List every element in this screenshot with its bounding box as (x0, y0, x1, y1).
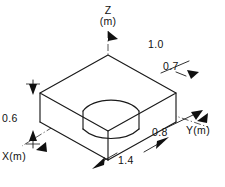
block-solid (40, 55, 176, 160)
isometric-block-diagram: Z (m) Y(m) X(m) 1.0 0.7 (0, 0, 225, 187)
dimension-0-8: 0.8 (152, 126, 168, 138)
dimension-1-0: 1.0 (148, 38, 164, 50)
dimension-0-7-arrowhead (187, 70, 199, 79)
dimension-0-6: 0.6 (2, 112, 18, 124)
y-axis-label: Y(m) (186, 124, 210, 136)
dimension-1-4-left-arrowhead (92, 157, 105, 169)
dimension-0-6-lower-arrowhead (29, 130, 37, 141)
z-axis-arrowhead (108, 31, 118, 41)
dimension-1-4-right-arrowhead (156, 137, 169, 149)
z-axis-arrow-group (108, 31, 118, 41)
figure-root: Z (m) Y(m) X(m) 1.0 0.7 (0, 0, 225, 187)
dimension-0-7: 0.7 (163, 60, 179, 72)
dimension-1-4-right-shaft (144, 144, 158, 152)
dimension-0-7-tick (176, 72, 186, 76)
x-axis-arrow-group (36, 142, 47, 152)
x-axis-arrowhead (36, 142, 47, 152)
z-axis-unit: (m) (100, 15, 117, 27)
x-axis-label: X(m) (2, 150, 26, 162)
dimension-0-6-group (26, 80, 40, 148)
dimension-1-4: 1.4 (118, 154, 134, 166)
dimension-0-6-upper-arrowhead (29, 84, 37, 95)
